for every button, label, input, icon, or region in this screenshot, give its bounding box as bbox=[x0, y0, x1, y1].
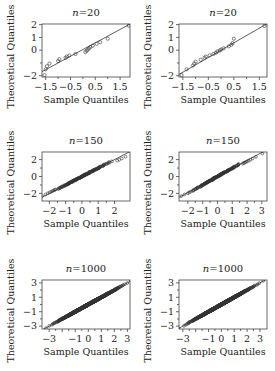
x-tick-label: 2 bbox=[111, 205, 117, 216]
y-tick-label: −2 bbox=[160, 70, 174, 81]
data-points bbox=[177, 279, 265, 329]
x-tick-label: 0.5 bbox=[226, 81, 241, 92]
y-tick-label: 0 bbox=[168, 44, 174, 55]
qq-panel-top-left: n=20−1.5−0.50.51.5210−2Sample QuantilesT… bbox=[5, 4, 130, 108]
panel-title: n=150 bbox=[69, 135, 103, 146]
data-point bbox=[95, 42, 98, 45]
y-tick-label: −2 bbox=[23, 70, 37, 81]
y-tick-label: −1 bbox=[23, 306, 37, 317]
x-tick-label: −0.5 bbox=[197, 81, 220, 92]
data-point bbox=[45, 65, 48, 68]
x-tick-label: 0 bbox=[214, 205, 220, 216]
qq-panel-top-right: n=20−1.5−0.50.51.5210−2Sample QuantilesT… bbox=[142, 4, 267, 108]
y-axis-label: Theoretical Quantiles bbox=[142, 4, 153, 108]
x-axis-label: Sample Quantiles bbox=[180, 346, 265, 357]
x-tick-label: −1.5 bbox=[171, 81, 194, 92]
title-n-value: =20 bbox=[216, 7, 237, 18]
y-tick-label: 2 bbox=[168, 154, 174, 165]
x-axis-label: Sample Quantiles bbox=[43, 346, 128, 357]
y-axis-label: Theoretical Quantiles bbox=[142, 130, 153, 234]
y-tick-label: −2 bbox=[23, 188, 37, 199]
y-tick-label: 0 bbox=[31, 171, 37, 182]
x-tick-label: 2 bbox=[111, 333, 117, 344]
data-points bbox=[43, 24, 130, 77]
data-point bbox=[43, 73, 46, 76]
x-tick-label: 3 bbox=[259, 205, 265, 216]
data-point bbox=[174, 198, 177, 201]
x-tick-label: 1 bbox=[231, 333, 237, 344]
data-points bbox=[34, 152, 134, 201]
qq-panel-middle-right: n=150−2−1012320−2Sample QuantilesTheoret… bbox=[142, 130, 267, 234]
y-axis-label: Theoretical Quantiles bbox=[5, 4, 16, 108]
y-tick-label: 3 bbox=[168, 277, 174, 288]
title-n-value: =150 bbox=[212, 135, 239, 146]
y-axis-label: Theoretical Quantiles bbox=[142, 258, 153, 362]
data-point bbox=[99, 41, 102, 44]
x-tick-label: −1 bbox=[59, 205, 73, 216]
y-axis-label: Theoretical Quantiles bbox=[5, 130, 16, 234]
panel-title: n=1000 bbox=[66, 263, 106, 274]
x-tick-label: 3 bbox=[124, 333, 130, 344]
x-tick-label: 0.5 bbox=[88, 81, 103, 92]
data-point bbox=[48, 62, 51, 65]
x-axis-label: Sample Quantiles bbox=[180, 218, 265, 229]
y-tick-label: 1 bbox=[168, 292, 174, 303]
x-tick-label: 1.5 bbox=[113, 81, 128, 92]
y-tick-label: 2 bbox=[31, 154, 37, 165]
data-point bbox=[261, 152, 264, 155]
y-tick-label: −3 bbox=[23, 320, 37, 331]
x-tick-label: −1.5 bbox=[34, 81, 57, 92]
y-tick-label: 1 bbox=[168, 32, 174, 43]
data-point bbox=[180, 73, 183, 76]
y-axis-label: Theoretical Quantiles bbox=[5, 258, 16, 362]
x-tick-label: 2 bbox=[244, 333, 250, 344]
y-tick-label: 3 bbox=[31, 277, 37, 288]
title-n-value: =1000 bbox=[209, 263, 243, 274]
y-tick-label: −2 bbox=[160, 188, 174, 199]
title-n-value: =1000 bbox=[72, 263, 106, 274]
x-axis-label: Sample Quantiles bbox=[180, 94, 265, 105]
x-tick-label: 1 bbox=[229, 205, 235, 216]
x-tick-label: 0 bbox=[218, 333, 224, 344]
x-axis-label: Sample Quantiles bbox=[43, 218, 128, 229]
x-tick-label: 0 bbox=[85, 333, 91, 344]
qq-plot-figure: n=20−1.5−0.50.51.5210−2Sample QuantilesT… bbox=[0, 0, 275, 371]
qq-panel-bottom-left: n=1000−3−1012331−1−3Sample QuantilesTheo… bbox=[5, 258, 132, 362]
y-tick-label: 1 bbox=[31, 292, 37, 303]
title-n-value: =20 bbox=[79, 7, 100, 18]
x-tick-label: −2 bbox=[42, 205, 56, 216]
x-tick-label: −1 bbox=[196, 205, 210, 216]
y-tick-label: 0 bbox=[168, 171, 174, 182]
y-tick-label: 2 bbox=[168, 19, 174, 30]
x-tick-label: 2 bbox=[244, 205, 250, 216]
x-tick-label: −2 bbox=[181, 205, 195, 216]
data-point bbox=[232, 37, 235, 40]
y-tick-label: −1 bbox=[160, 306, 174, 317]
x-tick-label: 3 bbox=[257, 333, 263, 344]
x-tick-label: −3 bbox=[176, 333, 190, 344]
x-axis-label: Sample Quantiles bbox=[43, 94, 128, 105]
data-point bbox=[124, 155, 127, 158]
panel-title: n=150 bbox=[206, 135, 240, 146]
reference-line bbox=[42, 24, 130, 72]
plot-frame bbox=[179, 24, 267, 77]
qq-panel-middle-left: n=150−2−101220−2Sample QuantilesTheoreti… bbox=[5, 130, 134, 234]
y-tick-label: 1 bbox=[31, 32, 37, 43]
x-tick-label: −0.5 bbox=[59, 81, 82, 92]
x-tick-label: 1.5 bbox=[252, 81, 267, 92]
y-tick-label: −3 bbox=[160, 320, 174, 331]
panel-title: n=20 bbox=[209, 7, 237, 18]
data-points bbox=[45, 279, 133, 329]
x-tick-label: −1 bbox=[68, 333, 82, 344]
data-point bbox=[106, 37, 109, 40]
data-point bbox=[131, 152, 134, 155]
data-point bbox=[120, 157, 123, 160]
title-n-value: =150 bbox=[75, 135, 102, 146]
y-tick-label: 2 bbox=[31, 19, 37, 30]
data-point bbox=[199, 58, 202, 61]
data-points bbox=[174, 152, 264, 201]
x-tick-label: 1 bbox=[95, 205, 101, 216]
x-tick-label: −3 bbox=[42, 333, 56, 344]
y-tick-label: 0 bbox=[31, 44, 37, 55]
panel-title: n=1000 bbox=[203, 263, 243, 274]
